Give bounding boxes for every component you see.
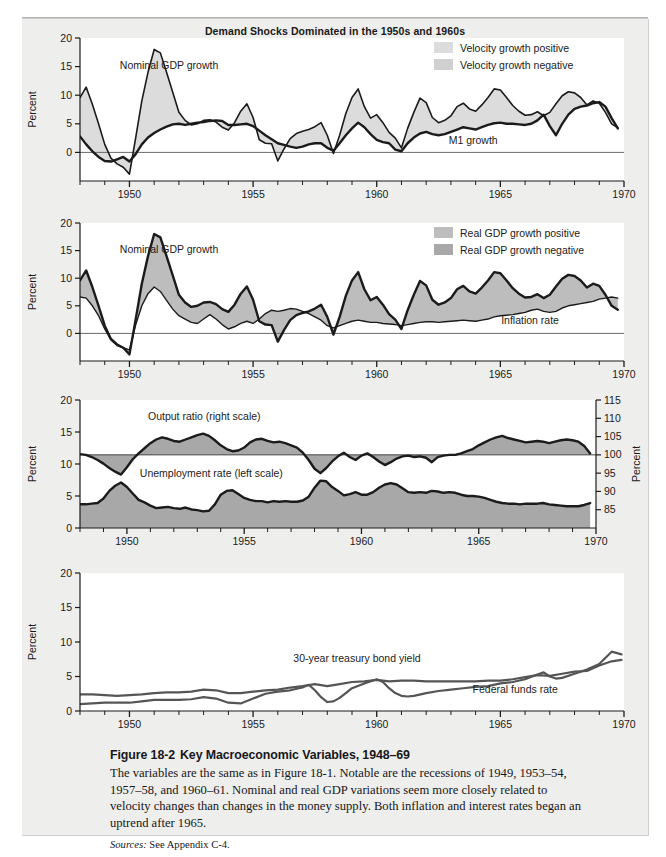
y-tick-label: 0 — [66, 522, 72, 534]
y-tick-label: 10 — [60, 89, 72, 101]
caption-figure-number: Figure 18-2 — [110, 748, 175, 762]
y-axis-title: Percent — [26, 624, 38, 660]
chart-velocity: 0510152019501955196019651970PercentNomin… — [22, 30, 648, 205]
chart-interest-rates-svg: 0510152019501955196019651970Percent30-ye… — [22, 565, 648, 735]
y-tick-right-label: 110 — [604, 412, 621, 424]
x-tick-label: 1950 — [118, 718, 142, 730]
y-tick-label: 0 — [66, 705, 72, 717]
legend-label-1: Real GDP growth negative — [460, 244, 584, 256]
y-tick-label: 20 — [60, 567, 72, 579]
annotation-label-1: Federal funds rate — [473, 683, 558, 695]
x-tick-label: 1965 — [467, 535, 491, 547]
chart-unemployment-output: 0510152085909510010511011519501955196019… — [22, 392, 648, 552]
y-tick-label: 0 — [66, 327, 72, 339]
x-tick-label: 1955 — [241, 368, 265, 380]
y-axis-right-title: Percent — [630, 446, 642, 482]
y-tick-right-label: 90 — [604, 485, 616, 497]
y-tick-label: 5 — [66, 117, 72, 129]
y-tick-label: 5 — [66, 299, 72, 311]
y-tick-label: 20 — [60, 394, 72, 406]
legend-label-0: Real GDP growth positive — [460, 227, 580, 239]
caption-body: The variables are the same as in Figure … — [110, 765, 590, 832]
x-tick-label: 1955 — [241, 188, 265, 200]
y-tick-right-label: 100 — [604, 448, 622, 460]
y-axis-title: Percent — [26, 274, 38, 310]
x-tick-label: 1965 — [489, 368, 513, 380]
x-tick-label: 1960 — [350, 535, 374, 547]
y-axis-title: Percent — [26, 446, 38, 482]
x-tick-label: 1955 — [241, 718, 265, 730]
chart-realgdp-svg: 0510152019501955196019651970PercentNomin… — [22, 215, 648, 385]
x-tick-label: 1970 — [612, 368, 636, 380]
y-tick-label: 10 — [60, 272, 72, 284]
y-tick-right-label: 115 — [604, 394, 621, 406]
y-tick-label: 15 — [60, 60, 72, 72]
chart-realgdp: 0510152019501955196019651970PercentNomin… — [22, 215, 648, 385]
y-tick-label: 10 — [60, 458, 72, 470]
legend-swatch-1 — [434, 59, 453, 70]
chart-velocity-svg: 0510152019501955196019651970PercentNomin… — [22, 30, 648, 205]
caption-figure-title: Key Macroeconomic Variables, 1948–69 — [180, 748, 410, 762]
annotation-label-0: Output ratio (right scale) — [148, 410, 261, 422]
y-tick-right-label: 95 — [604, 467, 616, 479]
y-axis-title: Percent — [26, 91, 38, 127]
figure-caption: Figure 18-2Key Macroeconomic Variables, … — [110, 748, 590, 850]
caption-sources: Sources: See Appendix C-4. — [110, 839, 590, 850]
x-tick-label: 1950 — [115, 535, 139, 547]
y-tick-label: 15 — [60, 244, 72, 256]
annotation-label-0: Nominal GDP growth — [120, 243, 219, 255]
annotation-label-1: Inflation rate — [501, 314, 559, 326]
y-tick-right-label: 85 — [604, 503, 616, 515]
x-tick-label: 1965 — [489, 188, 513, 200]
x-tick-label: 1960 — [365, 188, 389, 200]
legend-swatch-0 — [434, 227, 453, 238]
x-tick-label: 1970 — [612, 718, 636, 730]
sources-text: See Appendix C-4. — [149, 839, 229, 850]
x-tick-label: 1970 — [612, 188, 636, 200]
y-tick-right-label: 105 — [604, 430, 622, 442]
annotation-label-0: 30-year treasury bond yield — [293, 652, 420, 664]
y-tick-label: 20 — [60, 32, 72, 44]
annotation-label-0: Nominal GDP growth — [120, 59, 219, 71]
annotation-label-1: M1 growth — [449, 134, 498, 146]
x-tick-label: 1950 — [118, 188, 142, 200]
chart-unemployment-output-svg: 0510152085909510010511011519501955196019… — [22, 392, 648, 552]
y-tick-label: 5 — [66, 670, 72, 682]
legend-label-0: Velocity growth positive — [460, 42, 569, 54]
x-tick-label: 1960 — [365, 368, 389, 380]
legend-swatch-1 — [434, 244, 453, 255]
y-tick-label: 20 — [60, 217, 72, 229]
y-tick-label: 0 — [66, 146, 72, 158]
x-tick-label: 1965 — [489, 718, 513, 730]
y-tick-label: 10 — [60, 636, 72, 648]
figure-page: Demand Shocks Dominated in the 1950s and… — [0, 0, 666, 857]
sources-label: Sources: — [110, 839, 147, 850]
caption-heading: Figure 18-2Key Macroeconomic Variables, … — [110, 748, 590, 762]
chart-interest-rates: 0510152019501955196019651970Percent30-ye… — [22, 565, 648, 735]
legend-swatch-0 — [434, 42, 453, 53]
x-tick-label: 1950 — [118, 368, 142, 380]
x-tick-label: 1955 — [233, 535, 257, 547]
y-tick-label: 15 — [60, 426, 72, 438]
legend-label-1: Velocity growth negative — [460, 59, 573, 71]
x-tick-label: 1960 — [365, 718, 389, 730]
y-tick-label: 5 — [66, 490, 72, 502]
y-tick-label: 15 — [60, 601, 72, 613]
x-tick-label: 1970 — [584, 535, 608, 547]
annotation-label-1: Unemployment rate (left scale) — [140, 467, 283, 479]
